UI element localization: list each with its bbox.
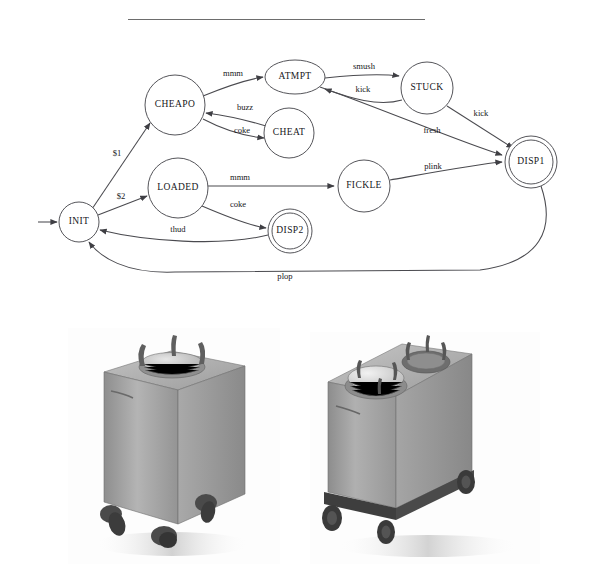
edge-label-mmm-top: mmm: [223, 68, 243, 78]
node-disp2-label: DISP2: [276, 225, 303, 235]
edge-label-dollar-one: $1: [113, 148, 122, 158]
cabinet-front-face: [104, 372, 178, 524]
diagram-nodes: INIT CHEAPO LOADED ATMPT CHEAT: [59, 60, 557, 253]
node-cheat[interactable]: CHEAT: [264, 108, 314, 158]
edge-label-kick-disp: kick: [474, 108, 489, 118]
node-loaded[interactable]: LOADED: [148, 158, 208, 218]
plate-dispenser-single-photo: [68, 328, 280, 564]
plate-dispenser-double-photo: [310, 332, 540, 564]
node-loaded-label: LOADED: [157, 182, 198, 192]
edge-label-dollar-two: $2: [117, 191, 126, 201]
node-cheapo[interactable]: CHEAPO: [145, 75, 205, 135]
edge-label-buzz: buzz: [237, 102, 253, 112]
cabinet-front-face: [328, 382, 396, 508]
edge-cheapo-atmpt: [203, 77, 263, 96]
photo-row: [0, 318, 592, 574]
node-disp2[interactable]: DISP2: [268, 209, 312, 253]
edge-label-coke-top: coke: [234, 125, 250, 135]
page-root: $1 $2 mmm buzz coke smush kick kick fres…: [0, 0, 592, 574]
edge-label-kick-back: kick: [356, 84, 371, 94]
edge-label-plink: plink: [424, 161, 442, 171]
node-cheapo-label: CHEAPO: [155, 99, 195, 109]
node-disp1-label: DISP1: [517, 156, 544, 166]
node-atmpt[interactable]: ATMPT: [265, 60, 325, 94]
node-init-label: INIT: [69, 216, 90, 226]
node-disp1[interactable]: DISP1: [505, 136, 557, 188]
state-diagram: $1 $2 mmm buzz coke smush kick kick fres…: [0, 34, 592, 302]
edge-label-fresh: fresh: [423, 125, 441, 135]
node-fickle[interactable]: FICKLE: [338, 160, 390, 212]
edge-label-mmm-bottom: mmm: [230, 172, 250, 182]
edge-fickle-disp1: [390, 162, 502, 180]
node-cheat-label: CHEAT: [273, 127, 306, 137]
node-stuck[interactable]: STUCK: [401, 62, 453, 114]
photo-ground-shadow: [336, 535, 520, 557]
plate-well-rear-inner: [407, 353, 445, 369]
edge-label-thud: thud: [170, 224, 186, 234]
node-stuck-label: STUCK: [410, 82, 443, 92]
edge-loaded-disp2: [202, 206, 266, 228]
edge-label-plop: plop: [277, 271, 292, 281]
edge-atmpt-stuck: [325, 75, 399, 78]
node-init[interactable]: INIT: [59, 202, 99, 242]
node-fickle-label: FICKLE: [346, 180, 382, 190]
edge-label-smush: smush: [353, 61, 376, 71]
node-atmpt-label: ATMPT: [278, 71, 311, 81]
horizontal-rule: [128, 19, 425, 20]
edge-label-coke-bottom: coke: [230, 199, 246, 209]
